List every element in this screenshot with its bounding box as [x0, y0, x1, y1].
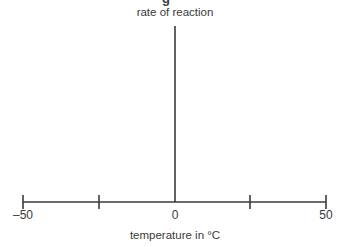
x-tick-label-50: 50 [319, 208, 332, 222]
chart: g rate of reaction –50 0 50 temperature … [0, 0, 344, 247]
x-tick-label-neg50: –50 [13, 208, 33, 222]
x-axis-label: temperature in °C [0, 229, 344, 241]
x-tick-label-0: 0 [172, 208, 179, 222]
